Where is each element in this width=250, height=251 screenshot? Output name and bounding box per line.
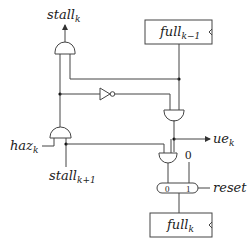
mux-input0-label: 0 [165,184,170,194]
and-gate-haz [50,127,71,138]
stall-k-label: stallk [47,7,80,24]
stall-k1-label: stallk+1 [49,168,96,185]
circuit-diagram: stallk fullk−1 uek hazk stallk+1 0 [0,0,250,251]
stall-k1-branch-wire [66,144,164,153]
and-gate-full [159,153,177,163]
stall-feedback-wire [70,54,179,79]
inverter-bubble [110,92,115,97]
and-gate-ue [164,110,184,121]
mux [157,183,198,193]
reset-label: reset [213,180,247,195]
mux-input1-label: 1 [186,184,191,194]
haz-k-label: hazk [10,138,38,155]
and-gate-stall [55,42,75,54]
haz-k-wire [42,138,54,146]
ue-k-label: uek [213,131,235,148]
inv-out-wire [115,94,170,110]
mux-const-label: 0 [185,147,192,162]
inverter-gate [100,88,110,100]
